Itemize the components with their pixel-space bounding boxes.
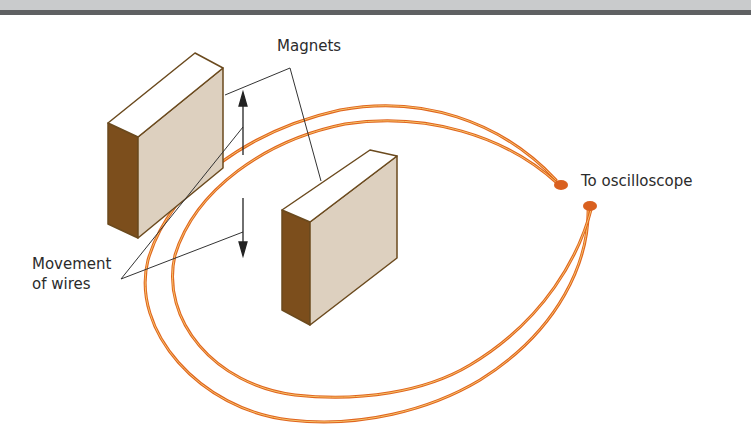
right-magnet-side	[282, 210, 310, 325]
movement-label-line2: of wires	[32, 275, 91, 293]
magnets-label: Magnets	[277, 37, 341, 55]
left-magnet-side	[108, 123, 138, 238]
magnets-leader	[225, 68, 321, 181]
left-magnet	[108, 53, 223, 238]
connector-dot-2	[583, 201, 597, 211]
diagram-canvas	[0, 0, 751, 436]
movement-arrows	[239, 92, 247, 256]
connector-dot-1	[554, 180, 568, 190]
right-magnet	[282, 150, 397, 325]
arrow-down-icon	[239, 242, 247, 256]
arrow-up-icon	[239, 92, 247, 106]
oscilloscope-label: To oscilloscope	[581, 172, 692, 190]
movement-label-line1: Movement	[32, 255, 111, 273]
